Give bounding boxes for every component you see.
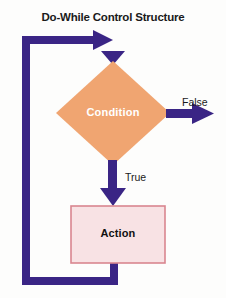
flowchart-canvas [0,0,226,298]
condition-node [56,61,170,165]
true-branch-arrow [100,160,126,206]
flowchart-diagram: Do-While Control Structure [0,0,226,298]
loop-back-left-segment [22,36,30,285]
loop-back-down-stub [110,262,118,281]
entry-arrow-head [93,30,113,50]
entry-arrow [22,30,113,50]
entry-arrow-shaft [22,36,96,44]
action-node [71,206,165,263]
true-arrow-head [100,188,126,206]
false-branch-label: False [182,96,208,108]
loop-back-bottom-segment [22,277,118,285]
true-branch-label: True [125,171,146,183]
